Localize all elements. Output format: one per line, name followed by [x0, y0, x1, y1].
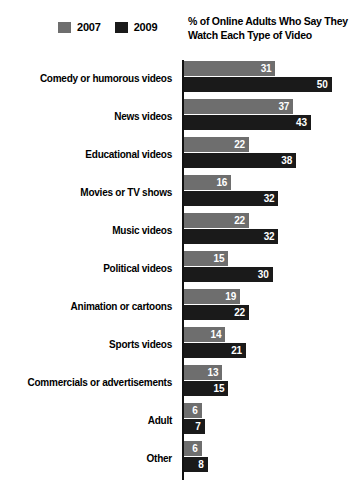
bar-value-label: 30	[258, 270, 273, 280]
legend-label: 2007	[77, 22, 101, 33]
bar-value-label: 38	[281, 156, 296, 166]
bar-pair: 1421	[184, 327, 246, 358]
legend-entry: 2009	[115, 22, 158, 33]
legend-label: 2009	[134, 22, 158, 33]
category-label: Comedy or humorous videos	[40, 61, 178, 95]
bar-group: Comedy or humorous videos3150	[0, 61, 360, 99]
bar-value-label: 6	[192, 406, 201, 416]
bar-2009: 50	[184, 77, 332, 92]
category-label: Political videos	[103, 251, 178, 285]
bar-2007: 14	[184, 327, 225, 342]
bar-value-label: 32	[264, 194, 279, 204]
bar-2009: 43	[184, 115, 311, 130]
bar-value-label: 6	[192, 444, 201, 454]
bar-2009: 32	[184, 191, 278, 206]
bar-group: Other68	[0, 441, 360, 479]
bar-value-label: 37	[278, 102, 293, 112]
bar-value-label: 15	[214, 384, 229, 394]
bar-group: Educational videos2238	[0, 137, 360, 175]
category-label: Commercials or advertisements	[28, 365, 178, 399]
bar-2007: 37	[184, 99, 293, 114]
bar-pair: 2232	[184, 213, 278, 244]
bar-value-label: 22	[234, 140, 249, 150]
bar-pair: 3150	[184, 61, 332, 92]
bar-pair: 1315	[184, 365, 228, 396]
category-label: Animation or cartoons	[71, 289, 178, 323]
bar-2007: 6	[184, 403, 202, 418]
category-label: News videos	[114, 99, 178, 133]
bar-value-label: 8	[198, 460, 207, 470]
category-label: Other	[147, 441, 178, 475]
chart-title: % of Online Adults Who Say They Watch Ea…	[188, 14, 356, 42]
bar-value-label: 31	[261, 64, 276, 74]
bar-2009: 30	[184, 267, 273, 282]
bar-value-label: 16	[216, 178, 231, 188]
bar-2009: 22	[184, 305, 249, 320]
bar-2007: 22	[184, 213, 249, 228]
bar-value-label: 21	[231, 346, 246, 356]
bar-pair: 3743	[184, 99, 311, 130]
bar-value-label: 19	[225, 292, 240, 302]
bar-value-label: 43	[296, 118, 311, 128]
bar-value-label: 32	[264, 232, 279, 242]
bar-value-label: 22	[234, 308, 249, 318]
chart-legend: 20072009	[58, 22, 157, 33]
bar-2009: 8	[184, 457, 208, 472]
bar-pair: 1922	[184, 289, 249, 320]
legend-entry: 2007	[58, 22, 101, 33]
legend-swatch-icon	[115, 22, 128, 33]
chart-plot-area: Comedy or humorous videos3150News videos…	[0, 58, 360, 491]
bar-group: Sports videos1421	[0, 327, 360, 365]
bar-2007: 15	[184, 251, 228, 266]
category-label: Music videos	[112, 213, 178, 247]
bar-2007: 16	[184, 175, 231, 190]
chart-header: 20072009 % of Online Adults Who Say They…	[0, 0, 360, 58]
bar-value-label: 15	[214, 254, 229, 264]
bar-pair: 1632	[184, 175, 278, 206]
bar-pair: 2238	[184, 137, 296, 168]
bar-pair: 68	[184, 441, 208, 472]
legend-swatch-icon	[58, 22, 71, 33]
bar-2007: 13	[184, 365, 222, 380]
bar-value-label: 13	[208, 368, 223, 378]
bar-2009: 38	[184, 153, 296, 168]
bar-group: Movies or TV shows1632	[0, 175, 360, 213]
category-label: Educational videos	[85, 137, 178, 171]
bar-value-label: 7	[195, 422, 204, 432]
bar-2009: 7	[184, 419, 205, 434]
bar-group: Political videos1530	[0, 251, 360, 289]
bar-pair: 1530	[184, 251, 273, 282]
bar-2007: 6	[184, 441, 202, 456]
bar-group: News videos3743	[0, 99, 360, 137]
bar-value-label: 14	[211, 330, 226, 340]
bar-group: Animation or cartoons1922	[0, 289, 360, 327]
category-label: Movies or TV shows	[80, 175, 178, 209]
bar-2009: 15	[184, 381, 228, 396]
bar-2009: 32	[184, 229, 278, 244]
category-label: Adult	[148, 403, 178, 437]
bar-2007: 19	[184, 289, 240, 304]
bar-value-label: 22	[234, 216, 249, 226]
bar-pair: 67	[184, 403, 205, 434]
bar-group: Music videos2232	[0, 213, 360, 251]
bar-group: Adult67	[0, 403, 360, 441]
bar-2007: 31	[184, 61, 275, 76]
bar-2007: 22	[184, 137, 249, 152]
bar-group: Commercials or advertisements1315	[0, 365, 360, 403]
bar-2009: 21	[184, 343, 246, 358]
bar-value-label: 50	[317, 80, 332, 90]
category-label: Sports videos	[109, 327, 178, 361]
